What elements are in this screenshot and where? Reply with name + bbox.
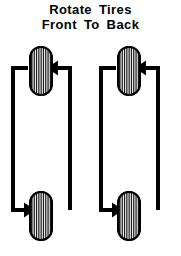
tire-front-left xyxy=(30,47,52,95)
left-side-group xyxy=(13,47,70,240)
front-to-rear-path-left xyxy=(13,68,28,210)
right-side-group xyxy=(101,47,158,240)
tire-rear-left xyxy=(30,192,52,240)
tire-rear-right xyxy=(118,192,140,240)
rear-to-front-path-left xyxy=(58,68,70,210)
diagram-page: Rotate Tires Front To Back xyxy=(0,0,181,256)
tire-front-right xyxy=(118,47,140,95)
tire-rotation-diagram xyxy=(0,0,181,256)
rear-to-front-path-right xyxy=(146,68,158,210)
front-to-rear-path-right xyxy=(101,68,116,210)
